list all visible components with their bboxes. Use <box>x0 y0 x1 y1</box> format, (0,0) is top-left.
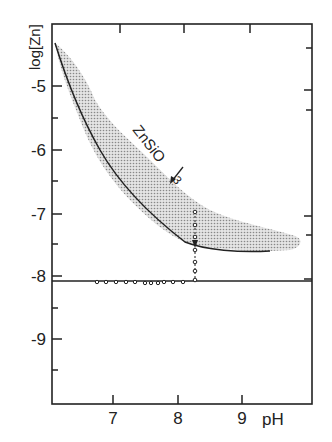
znsio3-band <box>55 43 300 251</box>
chart: -5 -6 -7 -8 -9 7 8 9 pH log[Zn] ZnSiO 3 <box>0 0 332 442</box>
ytick-label: -9 <box>31 330 46 349</box>
ytick-label: -7 <box>31 205 46 224</box>
xtick-label: 9 <box>237 409 246 428</box>
ytick-label: -5 <box>31 77 46 96</box>
ytick-label: -6 <box>31 141 46 160</box>
ytick-label: -8 <box>31 267 46 286</box>
y-axis-label: log[Zn] <box>26 24 43 70</box>
xtick-label: 8 <box>173 409 182 428</box>
xtick-label: 7 <box>108 409 117 428</box>
x-axis-label: pH <box>262 410 284 429</box>
